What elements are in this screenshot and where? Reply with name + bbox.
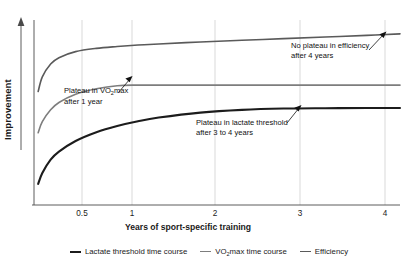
legend-swatch-efficiency: [300, 251, 311, 252]
annotation-efficiency-line1: No plateau in efficiency: [291, 41, 369, 51]
annotation-vo2max: Plateau in VO2max after 1 year: [64, 86, 128, 106]
y-axis-arrow-icon: [18, 17, 25, 150]
chart-figure: Improvement Years of sport-specific trai…: [0, 0, 418, 272]
chart-legend: Lactate threshold time course VO2max tim…: [0, 247, 418, 256]
annotation-efficiency-line2: after 4 years: [291, 51, 369, 61]
legend-swatch-vo2max: [200, 251, 211, 252]
annotation-efficiency: No plateau in efficiency after 4 years: [291, 41, 369, 60]
annotation-vo2max-line1-post: max: [114, 86, 128, 95]
y-axis-title: Improvement: [2, 20, 13, 140]
annotation-vo2max-line1: Plateau in VO2max: [64, 86, 128, 97]
legend-swatch-lactate: [70, 251, 81, 253]
legend-label-efficiency: Efficiency: [315, 247, 348, 256]
x-tick-label-1: 1: [130, 209, 135, 218]
legend-label-vo2max-sub: 2: [226, 251, 229, 257]
x-tick-label-3: 3: [298, 209, 303, 218]
x-axis-title: Years of sport-specific training: [125, 222, 251, 232]
legend-item-lactate: Lactate threshold time course: [70, 247, 187, 256]
legend-label-vo2max-post: max time course: [230, 247, 287, 256]
legend-label-lactate-pre: Lactate threshold time course: [85, 247, 187, 256]
annotation-lactate: Plateau in lactate threshold after 3 to …: [196, 118, 288, 137]
x-tick-label-4: 4: [383, 209, 388, 218]
legend-label-efficiency-pre: Efficiency: [315, 247, 348, 256]
annotation-vo2max-line2: after 1 year: [64, 97, 128, 107]
x-tick-label-2: 2: [213, 209, 218, 218]
x-tick-label-0.5: 0.5: [76, 209, 87, 218]
legend-label-vo2max: VO2max time course: [215, 247, 287, 256]
legend-item-vo2max: VO2max time course: [200, 247, 287, 256]
legend-item-efficiency: Efficiency: [300, 247, 348, 256]
annotation-vo2max-line1-sub: 2: [111, 90, 114, 96]
annotation-lactate-line2: after 3 to 4 years: [196, 128, 288, 138]
legend-label-lactate: Lactate threshold time course: [85, 247, 187, 256]
legend-label-vo2max-pre: VO: [215, 247, 226, 256]
annotation-lactate-line1: Plateau in lactate threshold: [196, 118, 288, 128]
annotation-vo2max-line1-pre: Plateau in VO: [64, 86, 111, 95]
